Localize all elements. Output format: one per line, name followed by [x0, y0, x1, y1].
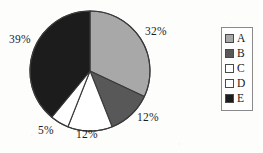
legend-label-b: B — [237, 48, 245, 60]
slice-label-d: 5% — [38, 124, 54, 136]
slice-label-e: 39% — [9, 33, 31, 45]
legend-item-c[interactable]: C — [225, 61, 252, 76]
legend-swatch-c-icon — [225, 64, 234, 73]
legend-label-c: C — [237, 63, 245, 75]
pie-slices-group — [30, 11, 150, 131]
legend-label-d: D — [237, 78, 245, 90]
legend: A B C D E — [221, 27, 253, 111]
legend-label-a: A — [237, 33, 245, 45]
legend-item-b[interactable]: B — [225, 46, 252, 61]
legend-swatch-b-icon — [225, 49, 234, 58]
legend-swatch-a-icon — [225, 34, 234, 43]
slice-label-b: 12% — [137, 111, 159, 123]
slice-label-a: 32% — [145, 25, 167, 37]
slice-label-c: 12% — [76, 128, 98, 140]
pie-chart-figure: 32% 12% 12% 5% 39% A B C D E — [0, 0, 263, 153]
legend-item-d[interactable]: D — [225, 76, 252, 91]
legend-label-e: E — [237, 93, 244, 105]
legend-item-a[interactable]: A — [225, 31, 252, 46]
legend-item-e[interactable]: E — [225, 91, 252, 106]
legend-swatch-e-icon — [225, 94, 234, 103]
legend-swatch-d-icon — [225, 79, 234, 88]
